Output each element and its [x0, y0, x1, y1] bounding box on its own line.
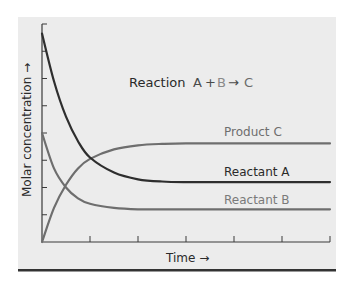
equation-arrow: → — [228, 75, 239, 90]
label-reactant-b: Reactant B — [224, 193, 290, 207]
chart-bottom-rule — [18, 269, 336, 272]
title-reaction-word: Reaction — [129, 75, 185, 90]
y-axis-label: Molar concentration → — [20, 63, 34, 197]
equation-c: C — [244, 75, 253, 90]
label-product-c: Product C — [224, 125, 282, 139]
chart-figure: Reaction A + B → C Product C Reactant A … — [0, 0, 351, 282]
equation-a: A — [193, 75, 202, 90]
equation-plus: + — [205, 75, 216, 90]
label-reactant-a: Reactant A — [224, 165, 290, 179]
x-axis-label: Time → — [165, 251, 209, 265]
chart-svg: Reaction A + B → C Product C Reactant A … — [0, 0, 351, 282]
equation-b: B — [217, 75, 226, 90]
